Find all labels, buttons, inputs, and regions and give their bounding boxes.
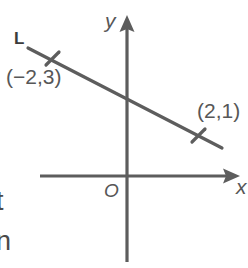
graph-line-L bbox=[28, 48, 222, 148]
cropped-text-fragment-bottom: n bbox=[0, 228, 11, 255]
origin-label: O bbox=[104, 181, 119, 200]
point-label-2-1: (2,1) bbox=[197, 100, 240, 121]
coordinate-graph-figure: y x O L (−2,3) (2,1) t n bbox=[0, 0, 248, 268]
graph-canvas bbox=[0, 0, 248, 268]
y-axis-label: y bbox=[105, 10, 116, 31]
point-label-minus2-3: (−2,3) bbox=[6, 66, 61, 87]
cropped-text-fragment-top: t bbox=[0, 188, 4, 215]
point-marker-2-1 bbox=[192, 129, 205, 142]
line-name-label: L bbox=[14, 30, 24, 47]
x-axis-label: x bbox=[236, 176, 247, 197]
